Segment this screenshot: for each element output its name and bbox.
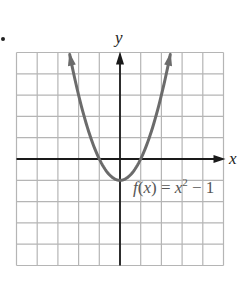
right-curve-arrow-icon [164, 53, 172, 67]
graph-canvas [0, 0, 250, 288]
x-axis-label: x [229, 149, 237, 169]
left-curve-arrow-icon [68, 53, 76, 67]
function-label: f(x) = x2 − 1 [133, 178, 214, 198]
function-equals: = [161, 178, 171, 197]
function-constant: − 1 [192, 178, 214, 197]
function-name: f [133, 178, 138, 197]
y-axis-label: y [115, 28, 123, 48]
axes [17, 52, 226, 266]
function-exponent: 2 [182, 176, 188, 188]
function-arg: x [143, 178, 151, 197]
